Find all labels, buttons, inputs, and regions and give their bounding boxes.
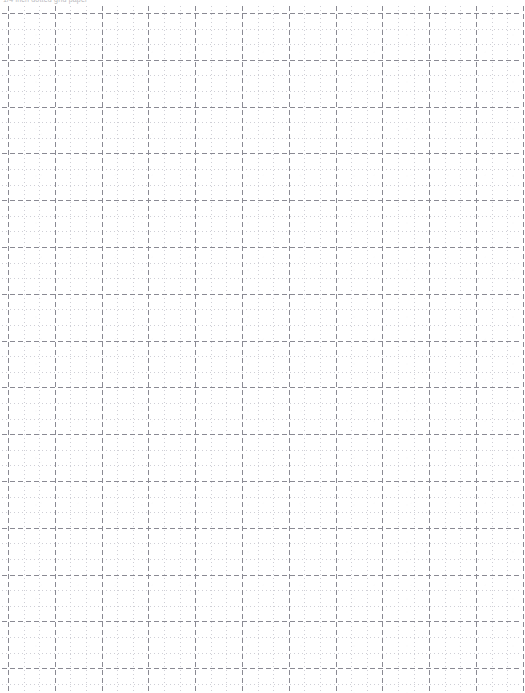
grid-svg [0,0,525,693]
grid-container [0,0,525,693]
paper-grain-texture [0,0,525,693]
major-vertical-gridlines [9,6,524,693]
major-horizontal-gridlines [2,14,522,669]
minor-vertical-gridlines [25,6,508,693]
grid-paper-page: 1/4 inch dotted grid paper [0,0,525,693]
page-header-text: 1/4 inch dotted grid paper [3,0,88,4]
minor-horizontal-gridlines [2,30,522,685]
